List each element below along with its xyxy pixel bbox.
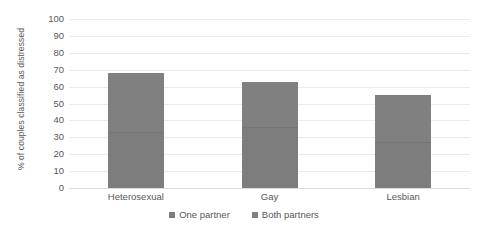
y-axis-tick-label: 100 [34,14,64,24]
bar-segment-both-partners[interactable] [242,82,298,128]
y-axis-tick-label: 50 [34,99,64,109]
y-axis-tick-label: 20 [34,149,64,159]
bar-chart: % of couples classified as distressed 10… [0,0,488,239]
bar-stack[interactable] [375,95,431,188]
y-axis-tick-label: 80 [34,48,64,58]
legend-swatch [252,212,258,218]
bar-segment-both-partners[interactable] [375,95,431,142]
bar-segment-both-partners[interactable] [108,73,164,132]
bar-stack[interactable] [242,82,298,188]
x-axis-tick-labels: HeterosexualGayLesbian [69,190,470,206]
y-axis-tick-label: 10 [34,166,64,176]
gridline [69,53,470,54]
x-axis-category-label: Gay [210,190,330,204]
legend-label: Both partners [262,210,319,220]
legend-swatch [169,212,175,218]
gridline [69,70,470,71]
y-axis-tick-label: 40 [34,116,64,126]
y-axis-tick-label: 0 [34,183,64,193]
gridline [69,188,470,189]
bar-stack[interactable] [108,73,164,188]
legend-item[interactable]: One partner [169,210,230,220]
bar-segment-one-partner[interactable] [108,132,164,188]
y-axis-tick-label: 60 [34,82,64,92]
plot-area [69,19,470,188]
bar-segment-one-partner[interactable] [242,127,298,188]
x-axis-category-label: Heterosexual [76,190,196,204]
y-axis-tick-label: 30 [34,133,64,143]
gridline [69,19,470,20]
x-axis-category-label: Lesbian [343,190,463,204]
chart-legend: One partnerBoth partners [0,210,488,220]
y-axis-tick-labels: 1009080706050403020100 [30,19,64,188]
y-axis-tick-label: 70 [34,65,64,75]
legend-item[interactable]: Both partners [252,210,319,220]
bar-segment-one-partner[interactable] [375,142,431,188]
y-axis-title: % of couples classified as distressed [16,4,26,194]
y-axis-tick-label: 90 [34,31,64,41]
legend-label: One partner [179,210,230,220]
gridline [69,36,470,37]
